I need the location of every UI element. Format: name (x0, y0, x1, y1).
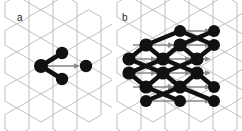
node-b (208, 81, 220, 93)
node-b (208, 25, 220, 37)
node-b (174, 25, 186, 37)
node-b (139, 80, 152, 93)
node-b (173, 38, 186, 51)
node-b (190, 52, 203, 65)
node-lower-right (56, 73, 68, 85)
node-b (208, 39, 220, 51)
node-upper-right (56, 47, 68, 59)
node-target (80, 60, 92, 72)
figure-root: a (0, 0, 242, 131)
panel-b: b (112, 0, 242, 131)
node-b (122, 66, 135, 79)
panel-a: a (0, 0, 112, 131)
node-b (190, 66, 203, 79)
panel-a-graphic (0, 0, 112, 131)
hopping-arrow-a (45, 63, 80, 69)
panel-b-graphic (112, 0, 242, 131)
nodes-b (122, 25, 220, 107)
node-b (140, 95, 152, 107)
node-b (139, 38, 152, 51)
node-b (173, 80, 186, 93)
node-b (174, 95, 186, 107)
node-b (156, 66, 169, 79)
node-b (122, 52, 135, 65)
node-b (156, 52, 169, 65)
node-b (208, 95, 220, 107)
node-hub (34, 59, 48, 73)
